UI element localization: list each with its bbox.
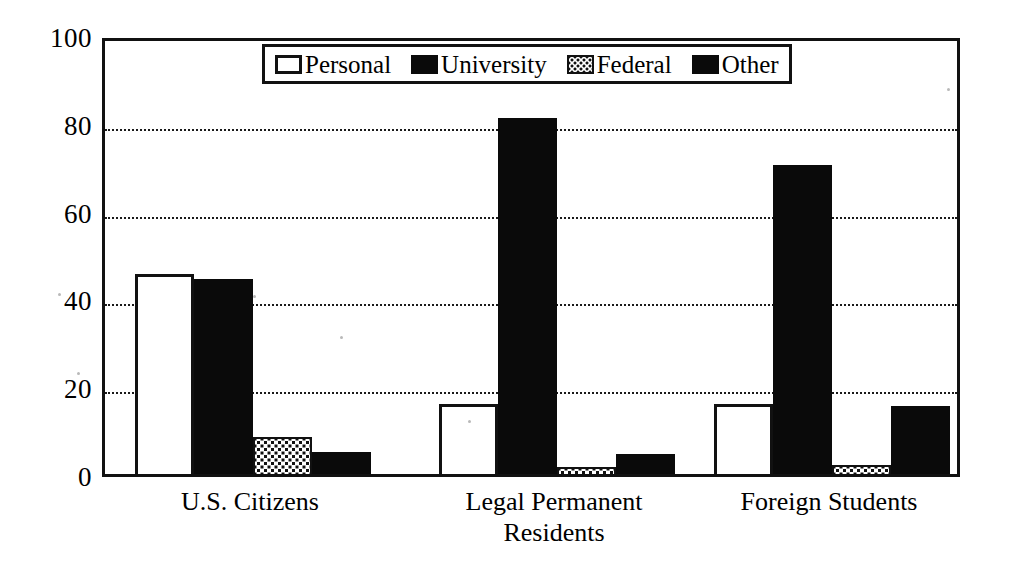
plot-area xyxy=(102,38,960,477)
scan-artifact xyxy=(253,295,256,298)
bar-chart-figure: 020406080100 U.S. CitizensLegal Permanen… xyxy=(0,0,1014,573)
x-group-label: U.S. Citizens xyxy=(181,486,319,517)
y-tick-label: 0 xyxy=(20,464,92,491)
bar-university-group3 xyxy=(773,165,832,474)
legend-label: Federal xyxy=(597,52,672,77)
bar-personal-group2 xyxy=(439,404,498,474)
legend-entry-university: University xyxy=(411,52,547,77)
y-tick-label: 40 xyxy=(20,288,92,315)
legend-swatch-icon-university xyxy=(411,55,438,74)
legend-entry-personal: Personal xyxy=(275,52,391,77)
y-axis: 020406080100 xyxy=(10,38,92,477)
bar-other-group2 xyxy=(616,454,675,474)
legend-label: Personal xyxy=(305,52,391,77)
scan-artifact xyxy=(947,88,950,91)
legend-swatch-icon-personal xyxy=(275,55,302,74)
legend-swatch-icon-federal xyxy=(567,55,594,74)
bar-university-group2 xyxy=(498,118,557,474)
scan-artifact xyxy=(340,336,343,339)
bar-other-group3 xyxy=(891,406,950,474)
y-tick-label: 60 xyxy=(20,200,92,227)
bar-university-group1 xyxy=(194,279,253,474)
bar-federal-group2 xyxy=(557,467,616,474)
scan-artifact xyxy=(77,372,80,375)
y-tick-label: 100 xyxy=(20,25,92,52)
bar-federal-group3 xyxy=(832,465,891,474)
legend-entry-federal: Federal xyxy=(567,52,672,77)
legend-entry-other: Other xyxy=(692,52,779,77)
legend-label: University xyxy=(441,52,547,77)
legend-swatch-icon-other xyxy=(692,55,719,74)
chart-legend: PersonalUniversityFederalOther xyxy=(262,44,792,84)
scan-artifact xyxy=(58,293,61,296)
scan-artifact xyxy=(468,420,471,423)
bar-federal-group1 xyxy=(253,437,312,474)
y-tick-label: 20 xyxy=(20,376,92,403)
bar-personal-group1 xyxy=(135,274,194,474)
y-tick-label: 80 xyxy=(20,112,92,139)
bar-personal-group3 xyxy=(714,404,773,474)
legend-label: Other xyxy=(722,52,779,77)
bar-other-group1 xyxy=(312,452,371,474)
x-group-label: Foreign Students xyxy=(741,486,918,517)
x-group-label: Legal Permanent Residents xyxy=(466,486,643,548)
